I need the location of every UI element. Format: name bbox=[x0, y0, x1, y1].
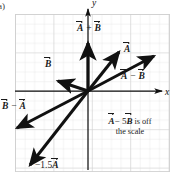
y-axis-label: y bbox=[92, 0, 96, 9]
label-b: B bbox=[45, 60, 51, 70]
vector-minus-1-5-a bbox=[30, 91, 88, 165]
vector-b-minus-a bbox=[17, 91, 88, 128]
x-axis-label: x bbox=[165, 88, 169, 98]
label-b-minus-a: B − A bbox=[2, 102, 26, 112]
vector-symbol-a: A bbox=[20, 102, 26, 112]
vector-symbol-a: A bbox=[124, 45, 130, 55]
vector-symbol-b: B bbox=[2, 102, 8, 112]
vector-symbol-b: B bbox=[45, 60, 51, 70]
label-a-minus-b: A − B bbox=[121, 72, 145, 82]
vector-diagram-figure: a) bbox=[0, 0, 179, 179]
vector-symbol-b: B bbox=[126, 116, 132, 127]
vector-symbol-a: A bbox=[52, 161, 58, 171]
vector-b bbox=[58, 81, 88, 91]
vector-symbol-b: B bbox=[139, 72, 145, 82]
label-a-plus-b: A + B bbox=[77, 24, 101, 34]
vector-symbol-b: B bbox=[95, 24, 101, 34]
label-minus-1-5-a: −1.5A bbox=[35, 161, 59, 171]
vector-arrows bbox=[17, 43, 154, 165]
off-scale-note-line1: is off bbox=[134, 117, 151, 126]
vector-symbol-a: A bbox=[121, 72, 127, 82]
off-scale-note: A− 5B is off the scale bbox=[92, 116, 168, 138]
vector-symbol-a: A bbox=[77, 24, 83, 34]
label-a: A bbox=[124, 45, 130, 55]
vector-a bbox=[88, 52, 119, 91]
off-scale-note-line2: the scale bbox=[116, 127, 144, 136]
vector-symbol-a: A bbox=[109, 116, 115, 127]
